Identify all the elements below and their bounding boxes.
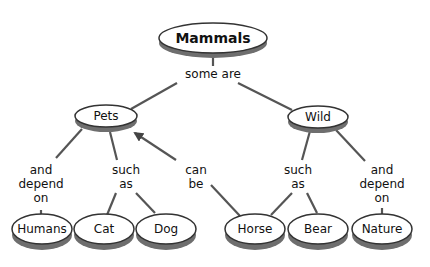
line-wild-suchas [302, 131, 310, 160]
line-suchas-dog [136, 193, 155, 213]
node-horse: Horse [225, 214, 285, 250]
node-cat: Cat [74, 214, 134, 250]
link-label-line: as [291, 177, 305, 191]
node-label: Dog [154, 222, 178, 236]
node-label: Pets [93, 109, 118, 123]
node-label: Cat [94, 222, 115, 236]
node-humans: Humans [12, 214, 72, 250]
link-label-line: depend [18, 177, 63, 191]
line-suchas-cat [107, 193, 116, 215]
node-wild: Wild [288, 106, 348, 133]
node-nature: Nature [352, 214, 412, 250]
line-suchas-horse [271, 193, 292, 215]
link-pets-and-depend-on: and depend on [18, 163, 63, 205]
link-pets-such-as: such as [112, 163, 140, 191]
link-label-line: be [189, 177, 204, 191]
link-label-line: as [119, 177, 133, 191]
link-wild-such-as: such as [284, 163, 312, 191]
node-bear: Bear [288, 214, 348, 250]
link-wild-and-depend-on: and depend on [359, 163, 404, 205]
link-label-line: can [185, 163, 207, 177]
link-label-line: and [371, 163, 394, 177]
link-label-line: on [375, 191, 390, 205]
link-label: some are [185, 67, 241, 81]
link-label-line: such [112, 163, 140, 177]
line-pets-anddepend [56, 129, 82, 158]
arrow-canbe-pets [135, 133, 176, 160]
node-label: Nature [362, 222, 403, 236]
link-label-line: depend [359, 177, 404, 191]
node-label: Horse [238, 222, 273, 236]
node-label: Mammals [175, 30, 250, 46]
line-wild-anddepend [336, 130, 365, 161]
node-pets: Pets [75, 105, 137, 132]
node-label: Humans [17, 222, 67, 236]
line-someare-pets [131, 83, 177, 109]
line-someare-wild [238, 83, 292, 110]
line-suchas-bear [307, 193, 317, 213]
link-label-line: and [30, 163, 53, 177]
link-label-line: such [284, 163, 312, 177]
line-canbe-horse [211, 185, 240, 216]
link-some-are: some are [180, 66, 246, 82]
link-can-be: can be [185, 163, 207, 191]
node-label: Wild [305, 110, 331, 124]
node-mammals: Mammals [159, 23, 267, 58]
link-label-line: on [34, 191, 49, 205]
line-pets-suchas [110, 132, 117, 160]
node-label: Bear [304, 222, 332, 236]
concept-map: Mammals Pets Wild Humans Cat Dog Horse B… [0, 0, 430, 267]
node-dog: Dog [136, 214, 196, 250]
